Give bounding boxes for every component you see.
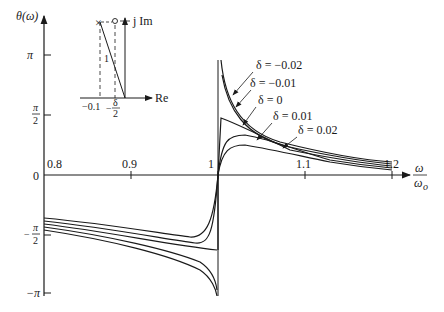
label-delta-0: δ = 0 [258,93,282,107]
y-tick-pi2-num: π [33,102,39,113]
x-tick-1.1: 1.1 [296,157,311,171]
x-tick-0.9: 0.9 [122,157,137,171]
y-tick-zero: 0 [33,169,39,183]
label-delta-0.01: δ = 0.01 [273,109,312,123]
y-axis-label: θ(ω) [16,9,38,23]
x-axis-label-num: ω [415,161,423,175]
y-tick-neg-pi2-num: π [33,222,39,233]
phase-response-diagram: θ(ω) π π 2 0 − π 2 −π 0.8 0.9 1 1.1 1.2 … [0,0,444,312]
x-axis-label-den-sub: o [423,181,428,192]
inset-zero-num: δ [113,97,118,108]
y-tick-neg-pi2-den: 2 [33,235,38,246]
y-tick-neg-pi: −π [26,286,41,300]
x-tick-0.8: 0.8 [47,157,62,171]
inset-pole-marker: × [95,16,102,30]
inset-segment-label: 1 [104,53,109,64]
curves-left [44,175,218,296]
inset-zero-marker [113,19,118,24]
x-axis-label-den: ω [414,176,422,190]
label-delta-neg-0.02: δ = −0.02 [256,58,302,72]
y-tick-pi2-den: 2 [33,115,38,126]
inset-zero-prefix: − [106,103,112,114]
inset-real-label: Re [155,91,168,105]
x-tick-1: 1 [208,157,214,171]
y-tick-neg-pi2-prefix: − [24,229,30,240]
inset-zero-den: 2 [113,108,118,119]
curves-right [218,60,392,250]
label-delta-0.02: δ = 0.02 [298,123,337,137]
y-tick-pi: π [27,48,34,62]
inset-pole-x-label: −0.1 [82,101,100,112]
inset-imag-label: j Im [132,14,153,28]
inset-pole-zero-plot: × j Im Re 1 −0.1 − δ 2 [80,14,168,119]
label-delta-neg-0.01: δ = −0.01 [250,76,296,90]
